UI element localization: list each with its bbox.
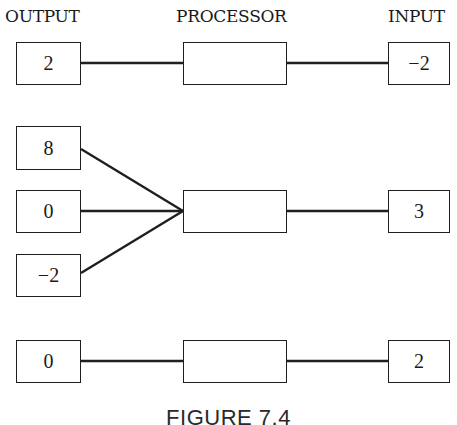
figure-caption: FIGURE 7.4 [0,405,457,425]
output-box-row2-bottom: −2 [16,254,81,297]
processor-box-row1 [183,42,287,85]
input-box-row1: −2 [388,42,450,85]
output-box-row1: 2 [16,42,81,85]
input-box-row2: 3 [388,190,450,233]
output-box-row2-middle: 0 [16,190,81,233]
arrow-row2-processor-to-output-top [81,149,183,211]
input-box-row3: 2 [388,340,450,383]
processor-box-row3 [183,340,287,383]
arrow-row2-processor-to-output-bottom [81,211,183,273]
output-box-row2-top: 8 [16,126,81,170]
processor-box-row2 [183,190,287,233]
output-box-row3: 0 [16,340,81,383]
